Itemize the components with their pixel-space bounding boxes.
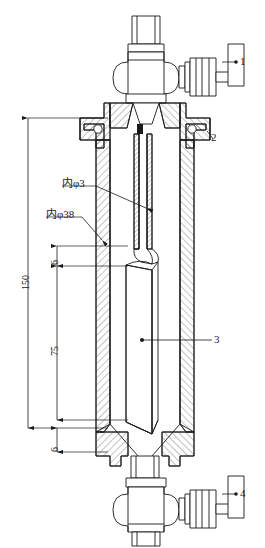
top-valve-stem-housing: [179, 58, 230, 96]
dimension-value-6-upper: 6: [49, 260, 60, 265]
bottom-valve-assembly: [113, 476, 244, 546]
bottom-conical-outlet: [96, 424, 194, 478]
annotation-inner-diameter-3: 内φ3: [62, 174, 85, 190]
part-label-2: 2: [211, 131, 217, 143]
top-valve-body: [113, 52, 179, 103]
center-dip-tube: [134, 134, 159, 264]
part-label-3: 3: [214, 333, 220, 345]
part-label-4: 4: [240, 487, 246, 499]
dimension-value-75: 75: [49, 346, 60, 356]
annotation-inner-diameter-38: 内φ38: [46, 205, 74, 221]
left-o-ring: [94, 125, 102, 133]
top-inlet-tube: [128, 16, 164, 52]
top-valve-assembly: [113, 16, 244, 103]
dimension-value-150: 150: [20, 275, 31, 290]
dimension-value-6-lower: 6: [49, 447, 60, 452]
assembly-drawing-svg: [0, 0, 265, 548]
dimension-lines: [28, 118, 128, 452]
technical-drawing-canvas: 1 2 3 4 内φ3 内φ38 150 6 75 6: [0, 0, 265, 548]
inner-sleeve: [126, 261, 158, 434]
right-o-ring: [188, 125, 196, 133]
part-label-1: 1: [240, 55, 246, 67]
